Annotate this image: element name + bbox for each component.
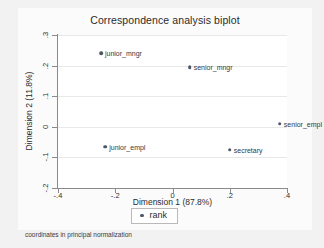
- y-tick-label: 0: [41, 125, 50, 129]
- legend[interactable]: rank: [131, 208, 178, 224]
- y-tick: [52, 35, 57, 36]
- y-tick-label: .2: [41, 62, 50, 68]
- gridline-y: [58, 35, 287, 36]
- data-point-label: secretary: [234, 146, 263, 153]
- data-point-label: junior_empl: [109, 143, 145, 150]
- data-point[interactable]: [99, 52, 103, 56]
- y-tick-label: -.2: [41, 184, 50, 193]
- y-tick: [52, 127, 57, 128]
- stata-graph-window: Correspondence analysis biplot junior_mn…: [0, 0, 324, 248]
- y-tick-label: -.1: [41, 153, 50, 162]
- data-point-label: senior_empl: [284, 120, 322, 127]
- filled-circle-marker-icon: [140, 214, 144, 218]
- legend-label: rank: [150, 211, 168, 220]
- gridline-y: [58, 96, 287, 97]
- data-point[interactable]: [188, 65, 192, 69]
- data-point-label: junior_mngr: [105, 50, 142, 57]
- y-axis-title: Dimension 2 (11.8%): [24, 72, 34, 151]
- plot-region: junior_mngrsenior_mngrsenior_empljunior_…: [58, 35, 287, 188]
- gridline-y: [58, 127, 287, 128]
- gridline-y: [58, 157, 287, 158]
- y-tick: [52, 157, 57, 158]
- y-tick: [52, 96, 57, 97]
- y-tick-label: .3: [41, 32, 50, 38]
- y-axis-line: [57, 34, 58, 189]
- chart-title: Correspondence analysis biplot: [18, 14, 312, 26]
- footnote: coordinates in principal normalization: [25, 231, 132, 238]
- data-point[interactable]: [278, 122, 282, 126]
- y-tick: [52, 188, 57, 189]
- y-tick: [52, 66, 57, 67]
- x-axis-title: Dimension 1 (87.8%): [58, 197, 287, 207]
- data-point-label: senior_mngr: [194, 64, 233, 71]
- y-tick-label: .1: [41, 93, 50, 99]
- data-point[interactable]: [228, 148, 232, 152]
- data-point[interactable]: [103, 145, 107, 149]
- gridline-y: [58, 66, 287, 67]
